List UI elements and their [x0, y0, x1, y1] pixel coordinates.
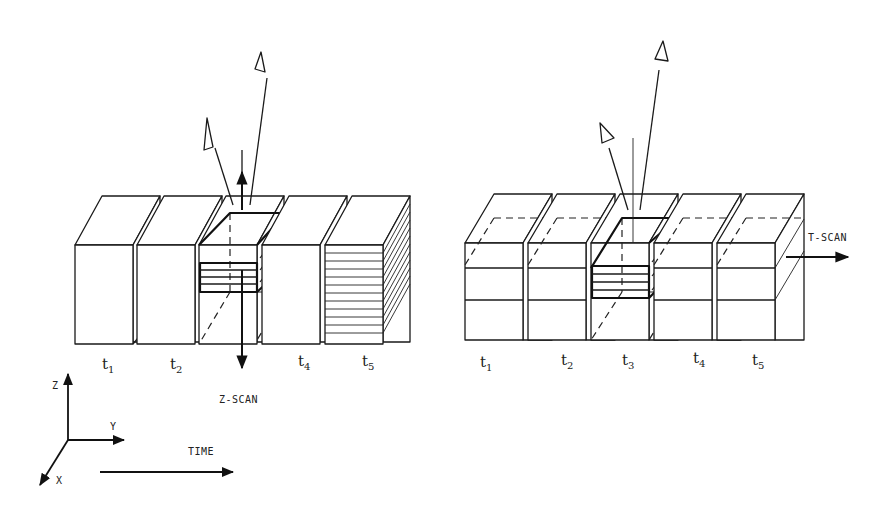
x-axis-label: X — [56, 475, 63, 486]
viewer-eye-icon — [250, 52, 267, 205]
left-panel-z-scan: Z-SCAN t1 t2 t4 t5 — [75, 52, 410, 405]
time-label-t2: t2 — [170, 355, 182, 375]
coordinate-axes: Z Y X — [40, 374, 124, 486]
time-axis: TIME — [100, 446, 233, 472]
z-axis-label: Z — [52, 380, 59, 391]
time-label-t2: t2 — [561, 351, 573, 371]
z-scan-label: Z-SCAN — [219, 394, 258, 405]
time-label-t4: t4 — [693, 349, 705, 369]
time-label-t4: t4 — [298, 352, 310, 372]
viewer-eye-icon — [640, 41, 668, 210]
y-axis-label: Y — [110, 421, 117, 432]
scan-diagram: Z-SCAN t1 t2 t4 t5 — [0, 0, 883, 511]
time-label-t1: t1 — [102, 355, 114, 375]
time-label-t5: t5 — [362, 352, 374, 372]
viewer-eye-icon — [204, 118, 233, 205]
time-label-t1: t1 — [480, 353, 492, 373]
time-label-t5: t5 — [752, 351, 764, 371]
time-axis-label: TIME — [188, 446, 214, 457]
time-label-t3: t3 — [622, 351, 634, 371]
t-scan-label: T-SCAN — [808, 232, 847, 243]
right-panel-t-scan: T-SCAN t1 t2 t3 t4 t5 — [465, 41, 848, 373]
